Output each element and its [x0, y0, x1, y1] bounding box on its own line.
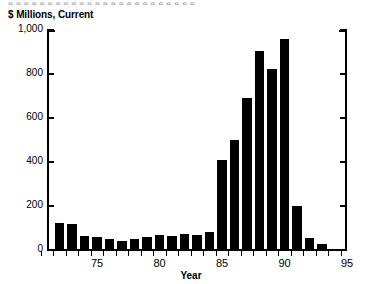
x-minor-tick-88: [253, 251, 254, 256]
y-tick-label-600: 600: [1, 112, 43, 122]
bar-72: [55, 223, 64, 251]
x-axis-title: Year: [0, 270, 382, 281]
x-minor-tick-75: [91, 251, 92, 256]
bar-74: [80, 236, 89, 250]
x-minor-tick-76: [103, 251, 104, 256]
x-minor-tick-74: [78, 251, 79, 256]
x-minor-tick-83: [191, 251, 192, 256]
plot-area: [47, 30, 347, 250]
bar-75: [92, 237, 101, 250]
x-minor-tick-94: [328, 251, 329, 256]
bar-77: [117, 241, 126, 250]
x-minor-tick-72: [53, 251, 54, 256]
bar-79: [142, 237, 151, 250]
x-minor-tick-79: [141, 251, 142, 256]
bar-93: [317, 244, 326, 250]
x-minor-tick-77: [116, 251, 117, 256]
x-tick-label-80: 80: [145, 257, 175, 269]
x-tick-label-85: 85: [207, 257, 237, 269]
x-minor-tick-82: [178, 251, 179, 256]
bar-82: [180, 234, 189, 250]
bar-83: [192, 235, 201, 250]
x-minor-tick-84: [203, 251, 204, 256]
x-minor-tick-91: [291, 251, 292, 256]
x-minor-tick-78: [128, 251, 129, 256]
x-minor-tick-86: [228, 251, 229, 256]
y-tick-label-1000: 1,000: [1, 24, 43, 34]
bar-92: [305, 238, 314, 250]
x-minor-tick-92: [303, 251, 304, 256]
bar-78: [130, 239, 139, 250]
y-tick-label-800: 800: [1, 68, 43, 78]
chart-figure: e e e e e e e e e e e e e e e e e e e e …: [0, 0, 382, 284]
bar-80: [155, 235, 164, 250]
clipped-top-text: e e e e e e e e e e e e e e e e e e e e …: [8, 0, 348, 5]
bar-series: [47, 30, 347, 250]
x-minor-tick-85: [216, 251, 217, 256]
y-tick-label-0: 0: [1, 244, 43, 254]
x-minor-tick-90: [278, 251, 279, 256]
bar-88: [255, 51, 264, 250]
x-minor-tick-89: [266, 251, 267, 256]
y-axis-tick-labels: 02004006008001,000: [0, 0, 43, 284]
x-tick-label-75: 75: [82, 257, 112, 269]
bar-90: [280, 39, 289, 250]
x-minor-tick-87: [241, 251, 242, 256]
bar-87: [242, 98, 251, 250]
bar-91: [292, 206, 301, 250]
x-minor-tick-93: [316, 251, 317, 256]
x-minor-tick-80: [153, 251, 154, 256]
x-tick-label-90: 90: [270, 257, 300, 269]
x-minor-tick-71: [41, 251, 42, 256]
y-tick-label-200: 200: [1, 200, 43, 210]
bar-81: [167, 236, 176, 250]
bar-73: [67, 224, 76, 250]
bar-84: [205, 232, 214, 250]
y-tick-label-400: 400: [1, 156, 43, 166]
x-minor-tick-73: [66, 251, 67, 256]
bar-76: [105, 239, 114, 250]
bar-85: [217, 160, 226, 250]
x-minor-tick-95: [341, 251, 342, 256]
bar-89: [267, 69, 276, 250]
bar-86: [230, 140, 239, 250]
x-minor-tick-81: [166, 251, 167, 256]
x-tick-label-95: 95: [332, 257, 362, 269]
